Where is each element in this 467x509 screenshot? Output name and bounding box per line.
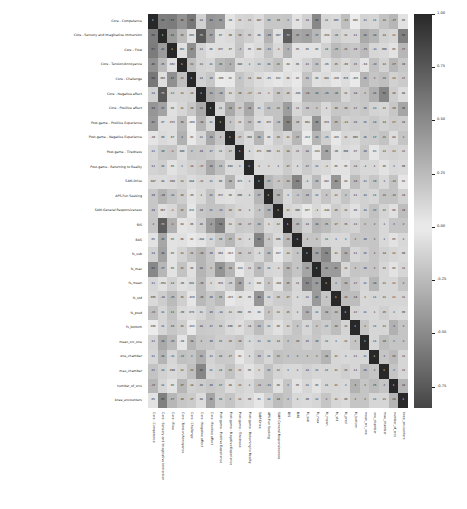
colorbar-tick xyxy=(432,280,435,281)
heatmap-cell: .2 xyxy=(379,379,389,394)
heatmap-cell: .05 xyxy=(389,43,399,58)
heatmap-cell: .17 xyxy=(225,350,235,365)
heatmap-cell: -.21 xyxy=(215,204,225,219)
heatmap-cell: -.11 xyxy=(369,43,379,58)
heatmap-cell: .09 xyxy=(302,393,312,408)
heatmap-cell: .095 xyxy=(331,14,341,29)
heatmap-cell: .2 xyxy=(312,350,322,365)
heatmap-cell: .06 xyxy=(273,320,283,335)
heatmap-cell: .21 xyxy=(177,262,187,277)
heatmap-cell: .13 xyxy=(360,175,370,190)
heatmap-cell: .2 xyxy=(360,320,370,335)
heatmap-cell: .28 xyxy=(158,350,168,365)
heatmap-cell: .06 xyxy=(273,379,283,394)
heatmap-cell: .13 xyxy=(283,320,293,335)
x-axis-tick-slot: Post-game - Negative Experience xyxy=(225,410,235,506)
heatmap-cell: .14 xyxy=(283,247,293,262)
colorbar-tick-label: 0.00 xyxy=(437,225,445,229)
heatmap-cell: .05 xyxy=(148,233,158,248)
heatmap-cell: .21 xyxy=(379,14,389,29)
heatmap-cell: .06 xyxy=(350,204,360,219)
heatmap-cell: .44 xyxy=(331,175,341,190)
heatmap-cell: .19 xyxy=(148,189,158,204)
heatmap-cell: .57 xyxy=(148,43,158,58)
heatmap-cell: .1 xyxy=(283,364,293,379)
heatmap-cell: .11 xyxy=(389,291,399,306)
heatmap-cell: .07 xyxy=(158,116,168,131)
heatmap-cell: .05 xyxy=(167,160,177,175)
heatmap-cell: .28 xyxy=(369,29,379,44)
y-axis-tick-label: knee_encounters xyxy=(0,393,145,408)
heatmap-cell: .072 xyxy=(264,116,274,131)
heatmap-cell: .2 xyxy=(369,247,379,262)
heatmap-cell: .3 xyxy=(350,379,360,394)
heatmap-cell: .05 xyxy=(312,43,322,58)
heatmap-cell: -.04 xyxy=(360,58,370,73)
heatmap-cell: .15 xyxy=(341,218,351,233)
heatmap-cell: .15 xyxy=(215,335,225,350)
heatmap-cell: .28 xyxy=(321,350,331,365)
heatmap-cell: .15 xyxy=(158,160,168,175)
heatmap-cell: -.14 xyxy=(341,116,351,131)
heatmap-cell: .25 xyxy=(331,116,341,131)
heatmap-cell: .09 xyxy=(398,160,408,175)
y-axis-tick-label: max_chamber xyxy=(0,364,145,379)
heatmap-cell: -.1 xyxy=(273,43,283,58)
x-axis-tick-label: Core - Challenge xyxy=(190,412,193,439)
y-axis-tick-label: Post-game - Returning to Reality xyxy=(0,160,145,175)
heatmap-cell: -.21 xyxy=(273,116,283,131)
heatmap-cell: .17 xyxy=(398,72,408,87)
heatmap-cell: .19 xyxy=(350,43,360,58)
heatmap-cell: .17 xyxy=(283,291,293,306)
heatmap-cell: -.11 xyxy=(254,87,264,102)
heatmap-cell: .11 xyxy=(341,335,351,350)
heatmap-cell: .07 xyxy=(235,320,245,335)
x-axis-tick-slot: knee_encounters xyxy=(398,410,408,506)
heatmap-cell: .14 xyxy=(302,14,312,29)
heatmap-cell: .09 xyxy=(244,393,254,408)
heatmap-cell: .2 xyxy=(331,277,341,292)
heatmap-cell: .11 xyxy=(350,364,360,379)
x-axis-tick-slot: Post-game - Returning to Reality xyxy=(244,410,254,506)
heatmap-cell: 1 xyxy=(215,116,225,131)
x-axis-tick-label: Core - Flow xyxy=(170,412,173,430)
heatmap-cell: .1 xyxy=(379,233,389,248)
heatmap-cell: .19 xyxy=(292,335,302,350)
heatmap-cell: .1 xyxy=(244,175,254,190)
heatmap-cell: .072 xyxy=(167,116,177,131)
heatmap-cell: .11 xyxy=(158,306,168,321)
heatmap-cell: .1 xyxy=(244,379,254,394)
heatmap-cell: .34 xyxy=(206,160,216,175)
heatmap-cell: .14 xyxy=(273,335,283,350)
heatmap-cell: .27 xyxy=(398,43,408,58)
heatmap-cell: .2 xyxy=(283,350,293,365)
heatmap-cell: .19 xyxy=(292,116,302,131)
heatmap-cell: .1 xyxy=(244,58,254,73)
heatmap-cell: .11 xyxy=(264,350,274,365)
heatmap-cell: .16 xyxy=(215,393,225,408)
heatmap-cell: .2 xyxy=(264,277,274,292)
heatmap-cell: -.044 xyxy=(321,204,331,219)
y-axis-tick-label: Core - Challenge xyxy=(0,72,145,87)
heatmap-cell: .11 xyxy=(331,364,341,379)
heatmap-cell: .15 xyxy=(302,335,312,350)
heatmap-cell: .2 xyxy=(302,350,312,365)
heatmap-cell: .11 xyxy=(341,29,351,44)
heatmap-cell: .09 xyxy=(215,175,225,190)
heatmap-cell: .59 xyxy=(148,72,158,87)
heatmap-cell: -.21 xyxy=(254,379,264,394)
heatmap-cell: .06 xyxy=(389,204,399,219)
heatmap-cell: .05 xyxy=(312,379,322,394)
heatmap-cell: .02 xyxy=(225,72,235,87)
heatmap-cell: .27 xyxy=(225,233,235,248)
heatmap-cell: 1 xyxy=(369,350,379,365)
heatmap-cell: .11 xyxy=(196,306,206,321)
heatmap-cell: .074 xyxy=(215,277,225,292)
heatmap-cell: .05 xyxy=(389,233,399,248)
heatmap-cell: .064 xyxy=(215,247,225,262)
heatmap-cell: .28 xyxy=(360,72,370,87)
heatmap-cell: .54 xyxy=(215,218,225,233)
heatmap-cell: .16 xyxy=(389,87,399,102)
colorbar-tick-label: -0.50 xyxy=(437,332,446,336)
heatmap-cell: .1 xyxy=(264,87,274,102)
